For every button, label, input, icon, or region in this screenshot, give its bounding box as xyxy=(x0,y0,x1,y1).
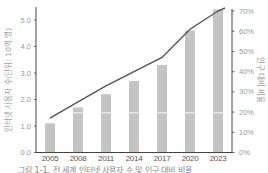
right-tick-label: 30% xyxy=(239,87,254,96)
bar-2008 xyxy=(73,107,83,152)
x-tick-label: 2014 xyxy=(126,154,143,163)
left-tick-label: 2.0 xyxy=(21,95,31,104)
figure-caption: 그림 1-1. 전 세계 인터넷 사용자 수 및 인구 대비 비율 xyxy=(18,166,268,173)
left-tick-labels: 0.01.02.03.04.05.0 xyxy=(21,16,36,158)
bar-2014 xyxy=(129,81,139,153)
chart: 0.01.02.03.04.05.0 0%10%20%30%40%50%60%7… xyxy=(0,0,268,173)
x-tick-label: 2008 xyxy=(70,154,87,163)
right-tick-label: 50% xyxy=(239,47,254,56)
right-tick-label: 60% xyxy=(239,27,254,36)
left-tick-label: 1.0 xyxy=(21,122,31,131)
x-tick-label: 2017 xyxy=(154,154,171,163)
x-tick-label: 2011 xyxy=(98,154,115,163)
x-tick-label: 2023 xyxy=(210,154,227,163)
left-tick-label: 4.0 xyxy=(21,42,31,51)
left-tick-label: 5.0 xyxy=(21,16,31,25)
bar-2023 xyxy=(213,9,223,152)
bar-2011 xyxy=(101,94,111,152)
x-tick-label: 2005 xyxy=(42,154,59,163)
left-axis-label: 인터넷 사용자 수(단위: 10억 명) xyxy=(3,28,13,133)
right-tick-label: 10% xyxy=(239,128,254,137)
right-tick-label: 0% xyxy=(239,148,250,157)
bar-2005 xyxy=(45,123,55,152)
left-tick-label: 0.0 xyxy=(21,148,31,157)
right-tick-label: 40% xyxy=(239,67,254,76)
right-tick-label: 70% xyxy=(239,7,254,16)
figure-caption-text: 그림 1-1. 전 세계 인터넷 사용자 수 및 인구 대비 비율 xyxy=(18,166,268,173)
bar-2017 xyxy=(157,65,167,152)
right-tick-labels: 0%10%20%30%40%50%60%70% xyxy=(232,7,254,158)
x-tick-labels: 2005200820112014201720202023 xyxy=(42,154,227,163)
bars-group xyxy=(45,9,223,152)
bar-2020 xyxy=(185,31,195,153)
left-tick-label: 3.0 xyxy=(21,69,31,78)
right-axis-label: 인구 대비 비율 xyxy=(256,57,266,104)
right-tick-label: 20% xyxy=(239,108,254,117)
x-tick-label: 2020 xyxy=(182,154,199,163)
